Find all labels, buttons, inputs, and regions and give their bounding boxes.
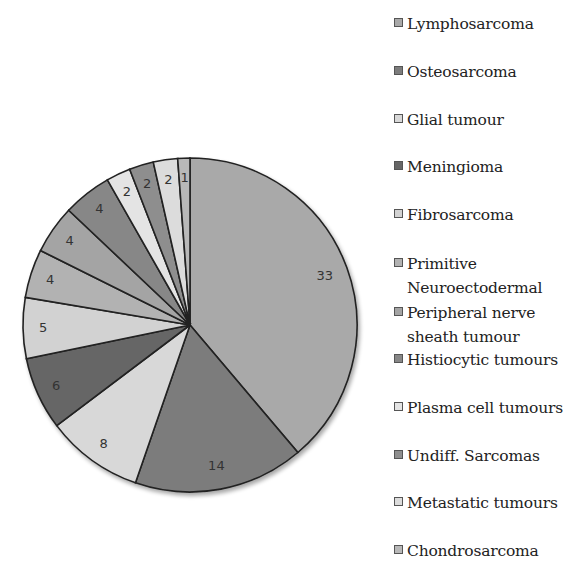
legend-item: Glial tumour [394, 108, 504, 132]
legend-swatch-icon [394, 209, 403, 218]
data-label: 8 [99, 436, 107, 451]
data-label: 4 [46, 272, 54, 287]
legend-item: Primitive Neuroectodermal [394, 252, 542, 300]
legend-item: Metastatic tumours [394, 491, 558, 515]
legend-label: Chondrosarcoma [407, 539, 539, 563]
legend-swatch-icon [394, 114, 403, 123]
legend-label: Lymphosarcoma [407, 12, 534, 36]
legend-label: Glial tumour [407, 108, 504, 132]
legend-item: Undiff. Sarcomas [394, 444, 540, 468]
legend-swatch-icon [394, 66, 403, 75]
legend-label: Peripheral nerve sheath tumour [407, 301, 535, 349]
data-label: 14 [208, 458, 225, 473]
legend-swatch-icon [394, 258, 403, 267]
legend-label: Primitive Neuroectodermal [407, 252, 542, 300]
legend-item: Histiocytic tumours [394, 348, 558, 372]
legend-item: Meningioma [394, 155, 503, 179]
legend-label: Fibrosarcoma [407, 203, 514, 227]
legend-item: Fibrosarcoma [394, 203, 514, 227]
legend-swatch-icon [394, 402, 403, 411]
legend-swatch-icon [394, 161, 403, 170]
legend-swatch-icon [394, 18, 403, 27]
data-label: 2 [164, 172, 172, 187]
data-label: 2 [143, 176, 151, 191]
legend-item: Chondrosarcoma [394, 539, 539, 563]
legend-label: Undiff. Sarcomas [407, 444, 540, 468]
legend-label: Osteosarcoma [407, 60, 517, 84]
data-label: 4 [65, 233, 73, 248]
legend-swatch-icon [394, 545, 403, 554]
legend-item: Lymphosarcoma [394, 12, 534, 36]
legend-label: Plasma cell tumours [407, 396, 563, 420]
pie-slices [23, 158, 357, 492]
legend-label: Meningioma [407, 155, 503, 179]
legend-swatch-icon [394, 307, 403, 316]
data-label: 33 [317, 268, 334, 283]
legend-item: Peripheral nerve sheath tumour [394, 301, 535, 349]
legend-swatch-icon [394, 450, 403, 459]
legend-swatch-icon [394, 497, 403, 506]
data-label: 6 [52, 378, 60, 393]
legend-label: Histiocytic tumours [407, 348, 558, 372]
data-label: 2 [123, 184, 131, 199]
chart-legend: LymphosarcomaOsteosarcomaGlial tumourMen… [394, 0, 587, 574]
legend-item: Osteosarcoma [394, 60, 517, 84]
legend-item: Plasma cell tumours [394, 396, 563, 420]
data-label: 4 [95, 201, 103, 216]
data-label: 5 [39, 320, 47, 335]
legend-swatch-icon [394, 354, 403, 363]
data-label: 1 [180, 170, 188, 185]
legend-label: Metastatic tumours [407, 491, 558, 515]
